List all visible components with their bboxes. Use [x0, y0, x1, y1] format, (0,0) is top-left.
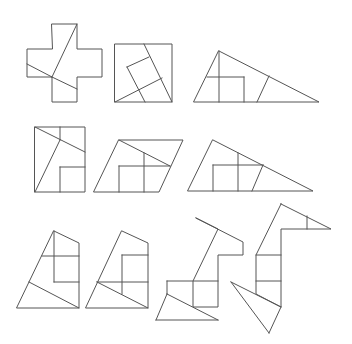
cross-cut-line [52, 24, 77, 77]
rectangle-cut-line [35, 140, 60, 192]
triangle-2-cut-line [252, 165, 263, 191]
dissection-diagram [0, 0, 352, 344]
triangle-1-cut-line [257, 76, 269, 102]
figure-square [115, 44, 172, 102]
figure-animal-1 [156, 218, 243, 320]
square-cut-line [127, 67, 145, 102]
cross-outline [27, 24, 102, 102]
figure-trapezoid-2 [86, 231, 148, 308]
figure-trapezoid-1 [17, 231, 79, 308]
animal-1-outline [193, 218, 243, 307]
cross-cut-line [27, 64, 52, 77]
figure-triangle-1 [194, 51, 319, 102]
figure-triangle-2 [188, 140, 313, 191]
figure-cross [27, 24, 102, 102]
square-cut-line [144, 44, 172, 102]
animal-1-cut-line [156, 294, 167, 320]
figure-parallelogram [94, 140, 183, 192]
swan-cut-line [231, 282, 269, 333]
trapezoid-2-outline [86, 231, 148, 308]
figure-swan [231, 204, 331, 333]
trapezoid-1-outline [17, 231, 79, 308]
trapezoid-1-cut-line [29, 282, 79, 308]
cross-cut-line [52, 77, 77, 89]
square-cut-line [127, 57, 149, 67]
square-outline [115, 44, 172, 102]
figure-rectangle [35, 127, 85, 192]
swan-cut-line [269, 307, 281, 333]
